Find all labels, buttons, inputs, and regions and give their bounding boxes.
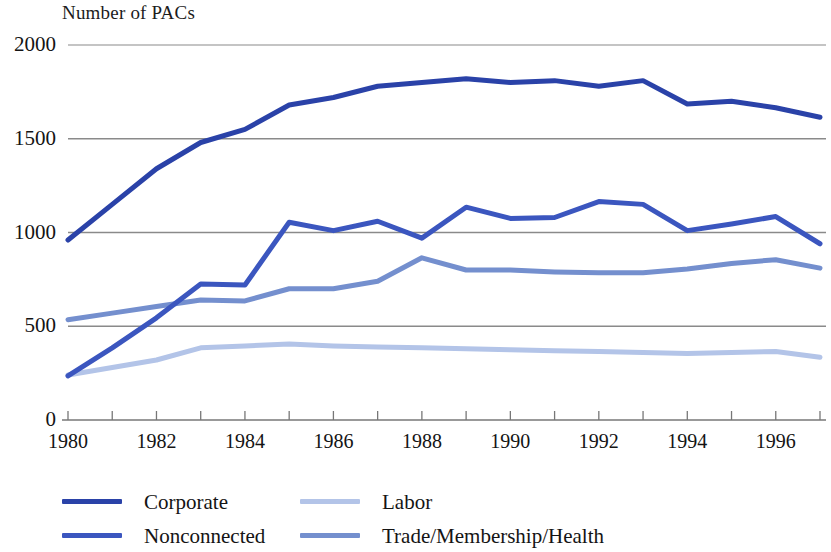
legend-color-swatch	[300, 499, 360, 504]
series-line	[68, 344, 820, 375]
series-line	[68, 79, 820, 240]
x-axis-tick-label: 1984	[200, 431, 290, 451]
y-axis-tick-label: 500	[0, 315, 56, 336]
x-axis-tick-label: 1986	[288, 431, 378, 451]
legend-label: Labor	[382, 488, 432, 516]
x-axis-tick-label: 1980	[23, 431, 113, 451]
series-line	[68, 258, 820, 320]
gridlines	[68, 45, 826, 326]
legend-color-swatch	[62, 499, 122, 504]
x-axis-tick-label: 1988	[377, 431, 467, 451]
series-lines	[68, 79, 820, 376]
y-axis-tick-label: 2000	[0, 34, 56, 55]
legend-label: Nonconnected	[144, 522, 265, 550]
legend-color-swatch	[62, 533, 122, 538]
chart-legend: CorporateLaborNonconnectedTrade/Membersh…	[0, 478, 831, 547]
legend-label: Corporate	[144, 488, 228, 516]
x-axis-tick-label: 1990	[465, 431, 555, 451]
y-axis-tick-label: 0	[0, 409, 56, 430]
legend-color-swatch	[300, 533, 360, 538]
y-axis-tick-label: 1500	[0, 128, 56, 149]
legend-label: Trade/Membership/Health	[382, 522, 604, 550]
plot-area: 0500100015002000 19801982198419861988199…	[0, 0, 831, 470]
x-axis-tick-label: 1994	[642, 431, 732, 451]
x-axis-tick-label: 1992	[554, 431, 644, 451]
x-axis-tick-label: 1996	[731, 431, 821, 451]
y-axis-tick-label: 1000	[0, 222, 56, 243]
x-axis-tick-label: 1982	[111, 431, 201, 451]
plot-svg	[0, 0, 831, 470]
axes	[62, 411, 826, 420]
